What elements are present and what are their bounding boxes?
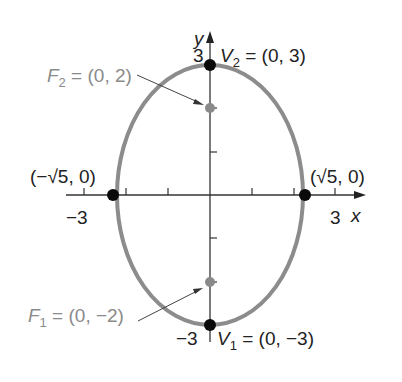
- y-tick-label-bottom: −3: [176, 328, 198, 349]
- f2-subscript: 2: [59, 75, 66, 90]
- v1-label: V1 = (0, −3): [217, 328, 314, 353]
- f1-label: F1 = (0, −2): [28, 305, 124, 330]
- focus-leaders: [137, 75, 204, 321]
- v2-label: V2 = (0, 3): [220, 45, 306, 70]
- x-tick-label-left: −3: [66, 207, 88, 228]
- v2-subscript: 2: [233, 55, 240, 70]
- left-endpoint-label: (−√5, 0): [30, 166, 96, 187]
- x-axis-label: x: [350, 205, 362, 226]
- v1-subscript: 1: [230, 338, 237, 353]
- f1-subscript: 1: [40, 315, 47, 330]
- y-tick-label-top: 3: [193, 45, 204, 66]
- y-axis: [206, 31, 217, 342]
- f1-leader-line: [138, 290, 199, 321]
- right-endpoint-point: [299, 189, 311, 201]
- right-endpoint-label: (√5, 0): [310, 166, 365, 187]
- f1-value: = (0, −2): [47, 305, 124, 326]
- f2-arrowhead-icon: [193, 99, 204, 105]
- vertex-v1-point: [204, 319, 216, 331]
- ellipse-graph: y x 3 −3 −3 3 V2 = (0, 3) V1 = (0, −3) F…: [0, 0, 402, 382]
- f1-arrowhead-icon: [193, 288, 203, 294]
- v1-value: = (0, −3): [237, 328, 314, 349]
- f2-label: F2 = (0, 2): [47, 65, 132, 90]
- v2-value: = (0, 3): [240, 45, 306, 66]
- focus-f1-point: [205, 277, 215, 287]
- x-axis-arrow-icon: [354, 191, 366, 199]
- left-endpoint-point: [107, 189, 119, 201]
- vertex-v2-point: [204, 59, 216, 71]
- x-tick-label-right: 3: [330, 207, 341, 228]
- focus-f2-point: [205, 103, 215, 113]
- y-axis-arrow-icon: [206, 31, 214, 43]
- f2-value: = (0, 2): [66, 65, 132, 86]
